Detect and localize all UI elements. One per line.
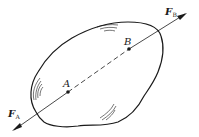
rigid-body-outline [31,22,163,127]
arrowhead-FB [177,13,187,20]
force-subscript: A [16,113,20,120]
point-B-dot [127,47,131,51]
line-AB-dashed [68,49,129,92]
force-symbol: F [165,6,172,17]
diagram-canvas [0,0,199,137]
line-of-action-lower [14,92,68,130]
line-of-action-upper [129,14,185,49]
force-label-FB: FB [165,7,177,18]
force-label-FA: FA [8,109,20,120]
arrowhead-FA [12,123,22,131]
force-subscript: B [173,11,177,18]
point-A-dot [66,90,70,94]
shading-left [33,78,43,100]
point-label-B: B [124,37,131,47]
force-symbol: F [8,108,15,119]
point-label-A: A [63,79,70,89]
shading-bottom [100,104,116,120]
